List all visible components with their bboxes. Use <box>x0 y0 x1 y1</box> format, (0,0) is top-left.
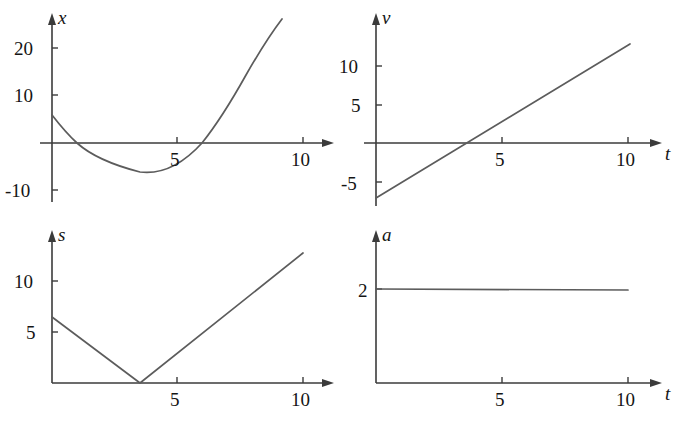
y-tick-label-neg5: -5 <box>341 173 357 194</box>
y-tick-label-5: 5 <box>351 95 361 116</box>
x-tick-label-10: 10 <box>291 149 310 170</box>
panel-acceleration: 2 5 10 a t <box>337 212 674 424</box>
x-tick-label-5: 5 <box>170 389 180 410</box>
y-axis-arrow <box>48 230 56 242</box>
y-axis-arrow <box>372 230 380 242</box>
panel-distance: 10 5 5 10 s t <box>0 212 337 424</box>
axis-name-s: s <box>58 224 65 245</box>
axis-name-v: v <box>382 7 391 28</box>
kinematics-figure: 20 10 -10 5 10 x t 10 5 -5 5 10 v <box>0 0 674 424</box>
axis-name-a: a <box>382 224 392 245</box>
panel-velocity: 10 5 -5 5 10 v t <box>337 0 674 212</box>
x-tick-label-10: 10 <box>291 389 310 410</box>
x-tick-label-5: 5 <box>495 149 505 170</box>
y-tick-label-5: 5 <box>26 322 36 343</box>
axis-name-x-quantity: x <box>57 7 67 28</box>
y-tick-label-10: 10 <box>14 271 33 292</box>
y-axis-arrow <box>48 13 56 25</box>
y-tick-label-20: 20 <box>14 38 33 59</box>
x-axis-arrow <box>322 139 334 147</box>
y-tick-label-neg10: -10 <box>5 180 30 201</box>
acceleration-line <box>376 289 628 290</box>
x-axis-arrow <box>322 379 334 387</box>
axis-name-t: t <box>665 143 671 164</box>
x-tick-label-10: 10 <box>616 389 635 410</box>
y-tick-label-10: 10 <box>339 56 358 77</box>
y-axis-arrow <box>372 13 380 25</box>
x-axis-arrow <box>650 139 662 147</box>
velocity-line <box>376 44 630 198</box>
x-tick-label-5: 5 <box>170 149 180 170</box>
y-tick-label-10: 10 <box>14 85 33 106</box>
y-tick-label-2: 2 <box>358 280 368 301</box>
axis-name-t: t <box>665 383 671 404</box>
distance-curve <box>52 253 303 383</box>
x-tick-label-5: 5 <box>495 389 505 410</box>
x-tick-label-10: 10 <box>616 149 635 170</box>
x-axis-arrow <box>650 379 662 387</box>
position-curve <box>52 19 282 172</box>
panel-position: 20 10 -10 5 10 x t <box>0 0 337 212</box>
